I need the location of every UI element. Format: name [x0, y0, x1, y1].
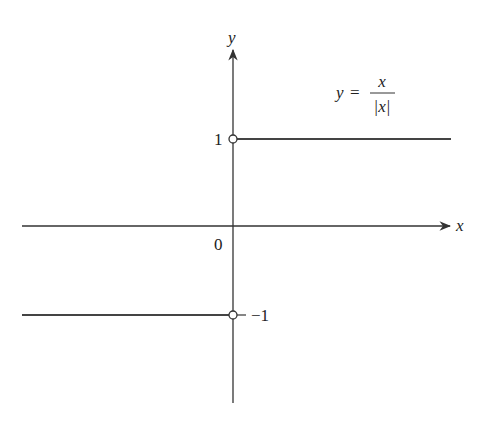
- x-axis-label: x: [455, 216, 464, 235]
- svg-text:=: =: [350, 83, 360, 102]
- function-label: y = x |x|: [334, 72, 395, 116]
- y-axis-label: y: [226, 28, 236, 47]
- svg-text:x: x: [377, 72, 386, 91]
- open-circle-lower: [229, 311, 237, 319]
- open-circle-upper: [229, 135, 237, 143]
- svg-text:y: y: [334, 83, 344, 102]
- origin-label: 0: [214, 235, 223, 254]
- tick-label-one: 1: [214, 130, 223, 149]
- tick-label-neg-one: −1: [251, 306, 269, 325]
- step-function-chart: x y 0 1 −1 y = x |x|: [0, 0, 491, 432]
- svg-text:|x|: |x|: [374, 97, 391, 116]
